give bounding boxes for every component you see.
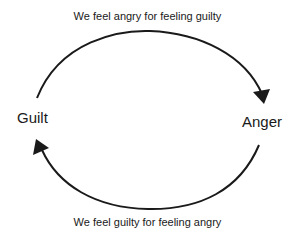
node-guilt: Guilt: [17, 110, 48, 125]
edge-guilt-to-anger-arrow: [37, 31, 262, 98]
node-anger: Anger: [242, 114, 282, 129]
arrowhead-anger-icon: [253, 89, 270, 104]
edge-anger-to-guilt-arrow: [42, 145, 259, 209]
edge-label-bottom: We feel guilty for feeling angry: [0, 217, 295, 228]
edge-label-top: We feel angry for feeling guilty: [0, 11, 295, 22]
guilt-anger-cycle-diagram: We feel angry for feeling guilty Guilt A…: [0, 0, 295, 240]
arrowhead-guilt-icon: [33, 139, 49, 155]
